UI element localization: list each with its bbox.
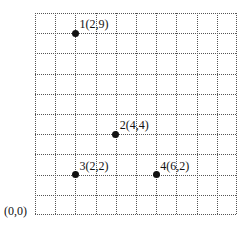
grid-lines (35, 13, 237, 215)
origin-label: (0,0) (4, 204, 27, 219)
point-label-1: 1(2,9) (79, 18, 108, 30)
point-marker-4 (153, 171, 160, 178)
point-label-4: 4(6,2) (160, 160, 189, 172)
point-marker-2 (112, 131, 119, 138)
point-marker-3 (72, 171, 79, 178)
coordinate-grid: 1(2,9) 2(4,4) 3(2,2) 4(6,2) (35, 13, 237, 215)
point-label-3: 3(2,2) (79, 160, 108, 172)
point-marker-1 (72, 30, 79, 37)
point-label-2: 2(4,4) (120, 119, 149, 131)
